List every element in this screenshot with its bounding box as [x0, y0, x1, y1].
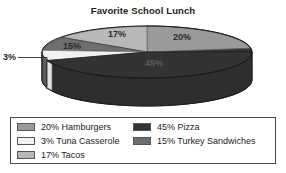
legend-swatch-turkey-sandwiches [133, 137, 151, 145]
slice-label-hamburgers: 20% [173, 32, 191, 42]
legend-item-hamburgers[interactable]: 20% Hamburgers [17, 120, 133, 134]
legend-item-tacos[interactable]: 17% Tacos [17, 148, 133, 162]
legend-label-tacos: 17% Tacos [41, 150, 85, 160]
pie-svg: 20% 17% 15% 45% 3% [0, 16, 286, 112]
pie-plot-area: 20% 17% 15% 45% 3% [0, 16, 286, 112]
slice-label-turkey: 15% [63, 41, 81, 51]
pie-slice-hamburgers [147, 26, 250, 52]
legend-label-hamburgers: 20% Hamburgers [41, 122, 111, 132]
legend-swatch-pizza [133, 123, 151, 131]
legend-label-pizza: 45% Pizza [157, 122, 200, 132]
legend-item-pizza[interactable]: 45% Pizza [133, 120, 275, 134]
legend-swatch-tacos [17, 151, 35, 159]
chart-title: Favorite School Lunch [0, 5, 286, 16]
legend-label-tuna-casserole: 3% Tuna Casserole [41, 136, 120, 146]
legend-swatch-tuna-casserole [17, 137, 35, 145]
legend-grid: 20% Hamburgers 3% Tuna Casserole 17% Tac… [11, 118, 275, 163]
pie-chart-figure: Favorite School Lunch [0, 0, 286, 173]
legend-item-turkey-sandwiches[interactable]: 15% Turkey Sandwiches [133, 134, 275, 148]
chart-legend: 20% Hamburgers 3% Tuna Casserole 17% Tac… [10, 117, 276, 164]
legend-swatch-hamburgers [17, 123, 35, 131]
slice-label-pizza: 45% [145, 58, 163, 68]
legend-item-tuna-casserole[interactable]: 3% Tuna Casserole [17, 134, 133, 148]
legend-item-spacer [133, 148, 275, 162]
slice-label-tuna-casserole: 3% [3, 52, 16, 62]
legend-label-turkey-sandwiches: 15% Turkey Sandwiches [157, 136, 256, 146]
slice-label-tacos: 17% [108, 29, 126, 39]
